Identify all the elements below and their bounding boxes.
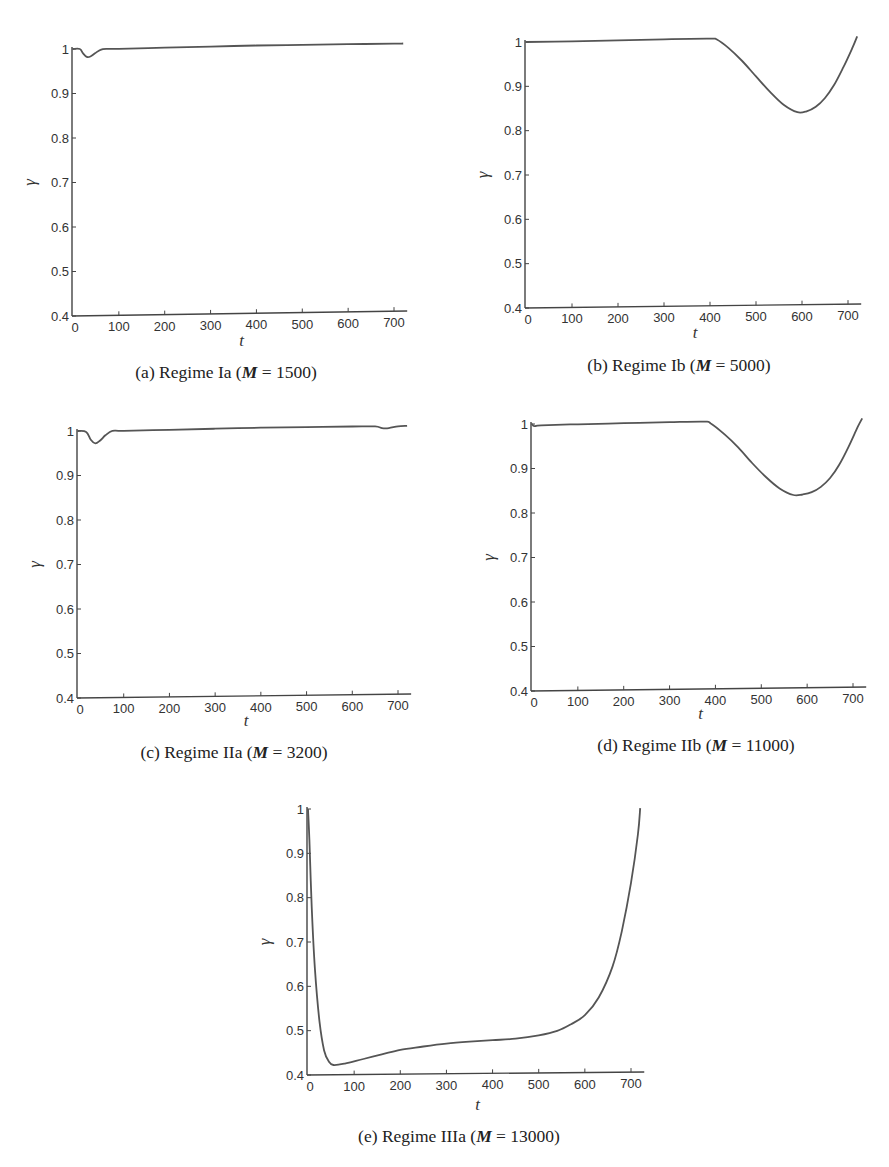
x-axis-label: t: [475, 1095, 481, 1114]
x-axis-line: [307, 1072, 644, 1075]
x-tick-label: 700: [620, 1076, 642, 1091]
y-tick-label: 0.9: [286, 846, 304, 861]
y-tick-label: 0.5: [286, 1023, 304, 1038]
chart-5-axes: 0.40.50.60.70.80.91010020030040050060070…: [255, 802, 644, 1115]
x-tick-label: 400: [482, 1077, 504, 1092]
series-line-gamma: [308, 808, 640, 1065]
caption-value: 13000: [510, 1126, 554, 1146]
y-tick-label: 0.4: [286, 1068, 304, 1083]
x-tick-label: 0: [306, 1079, 313, 1094]
x-tick-label: 300: [436, 1078, 458, 1093]
x-tick-label: 100: [343, 1079, 365, 1094]
y-tick-label: 1: [297, 802, 304, 817]
chart-e: 0.40.50.60.70.80.91010020030040050060070…: [0, 0, 889, 1130]
caption-var: M: [476, 1126, 492, 1146]
y-tick-label: 0.8: [286, 890, 304, 905]
x-tick-label: 200: [389, 1078, 411, 1093]
caption-suffix: ): [554, 1126, 560, 1146]
y-axis-label: γ: [255, 937, 274, 945]
x-tick-label: 600: [574, 1077, 596, 1092]
y-tick-label: 0.7: [286, 935, 304, 950]
caption-prefix: (e) Regime IIIa (: [358, 1126, 476, 1146]
x-tick-label: 500: [528, 1077, 550, 1092]
panel-e: 0.40.50.60.70.80.91010020030040050060070…: [0, 0, 889, 1134]
caption-eq: =: [492, 1126, 511, 1146]
y-tick-label: 0.6: [286, 979, 304, 994]
caption-e: (e) Regime IIIa (M = 13000): [358, 1126, 560, 1147]
